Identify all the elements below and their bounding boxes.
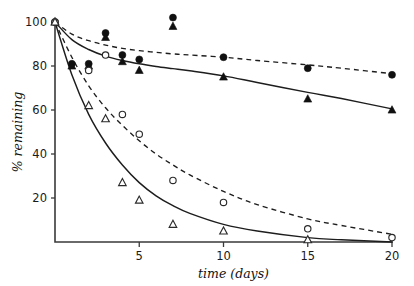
y-tick-label-40: 40 bbox=[32, 147, 47, 161]
data-point-open-triangle-4 bbox=[135, 196, 143, 203]
x-tick-label-20: 20 bbox=[385, 249, 400, 263]
data-point-open-triangle-2 bbox=[102, 115, 110, 122]
data-point-open-circle-7 bbox=[305, 226, 311, 232]
data-point-open-triangle-3 bbox=[119, 179, 127, 186]
x-tick-label-15: 15 bbox=[300, 249, 315, 263]
data-point-filled-triangle-8 bbox=[304, 95, 312, 102]
chart-figure: 204060801005101520time (days)% remaining bbox=[0, 0, 414, 286]
x-tick-label-5: 5 bbox=[136, 249, 143, 263]
data-point-open-circle-1 bbox=[86, 67, 92, 73]
y-axis-title: % remaining bbox=[10, 92, 25, 173]
data-point-filled-triangle-5 bbox=[135, 66, 143, 73]
data-point-filled-circle-8 bbox=[304, 65, 311, 72]
data-point-filled-triangle-9 bbox=[388, 106, 396, 113]
data-point-open-triangle-6 bbox=[220, 227, 228, 234]
x-axis-title: time (days) bbox=[198, 266, 269, 281]
y-tick-label-80: 80 bbox=[32, 59, 47, 73]
data-point-open-circle-4 bbox=[136, 131, 142, 137]
data-point-filled-triangle-6 bbox=[169, 22, 177, 29]
data-point-open-triangle-1 bbox=[85, 102, 93, 109]
data-point-filled-circle-5 bbox=[136, 56, 143, 63]
data-point-open-circle-8 bbox=[389, 234, 395, 240]
y-tick-label-60: 60 bbox=[32, 103, 47, 117]
data-point-filled-circle-7 bbox=[220, 54, 227, 61]
chart-axis-labels: 204060801005101520time (days)% remaining bbox=[10, 15, 399, 281]
data-point-open-circle-6 bbox=[220, 199, 226, 205]
y-tick-label-20: 20 bbox=[32, 191, 47, 205]
data-point-filled-circle-6 bbox=[169, 14, 176, 21]
data-point-open-circle-5 bbox=[170, 177, 176, 183]
data-point-open-triangle-5 bbox=[169, 220, 177, 227]
data-point-open-circle-3 bbox=[119, 111, 125, 117]
chart-plot-area: 204060801005101520time (days)% remaining bbox=[0, 0, 414, 286]
x-tick-label-10: 10 bbox=[216, 249, 231, 263]
y-tick-label-100: 100 bbox=[25, 15, 47, 29]
chart-data-markers bbox=[51, 14, 396, 243]
data-point-open-circle-2 bbox=[102, 52, 108, 58]
data-point-filled-circle-9 bbox=[389, 71, 396, 78]
